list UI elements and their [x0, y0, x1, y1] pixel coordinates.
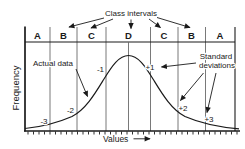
class-letter-row: A B C D C B A	[34, 30, 224, 41]
class-letter-a-right: A	[217, 30, 224, 41]
std-dev-arrow-plus2	[181, 73, 204, 101]
class-intervals-arrow-b-right	[157, 18, 190, 28]
std-dev-arrow-plus3	[207, 73, 216, 113]
sd-label-plus1: +1	[145, 63, 155, 72]
standard-deviations-label-line2: deviations	[199, 61, 235, 70]
class-intervals-arrow-b-left	[69, 18, 104, 27]
class-letter-a-left: A	[34, 30, 41, 41]
x-axis-label: Values	[103, 134, 128, 144]
sd-label-plus2: +2	[178, 104, 188, 113]
diagram-canvas: Class intervals A B C D C B A -3 -2 -1 +…	[0, 0, 245, 149]
class-letter-c-left: C	[88, 30, 95, 41]
class-intervals-title: Class intervals	[105, 9, 157, 18]
class-letter-d: D	[125, 30, 132, 41]
actual-data-arrow	[76, 69, 88, 97]
sd-label-plus3: +3	[204, 115, 214, 124]
standard-deviations-label-line1: Standard	[200, 52, 232, 61]
class-intervals-arrow-c-right	[149, 19, 161, 28]
x-axis-ticks	[28, 132, 237, 135]
y-axis-label: Frequency	[10, 65, 21, 110]
sd-value-labels: -3 -2 -1 +1 +2 +3	[40, 63, 214, 126]
class-letter-c-right: C	[161, 30, 168, 41]
class-letter-b-left: B	[60, 30, 67, 41]
sd-label-minus1: -1	[97, 65, 105, 74]
class-letter-b-right: B	[188, 30, 195, 41]
sd-label-minus2: -2	[67, 106, 75, 115]
sd-label-minus3: -3	[40, 117, 48, 126]
normal-distribution-diagram: Class intervals A B C D C B A -3 -2 -1 +…	[0, 0, 245, 149]
standard-deviations-label: Standard deviations	[199, 52, 235, 70]
actual-data-label: Actual data	[33, 59, 74, 68]
std-dev-arrow-plus1	[162, 63, 197, 67]
